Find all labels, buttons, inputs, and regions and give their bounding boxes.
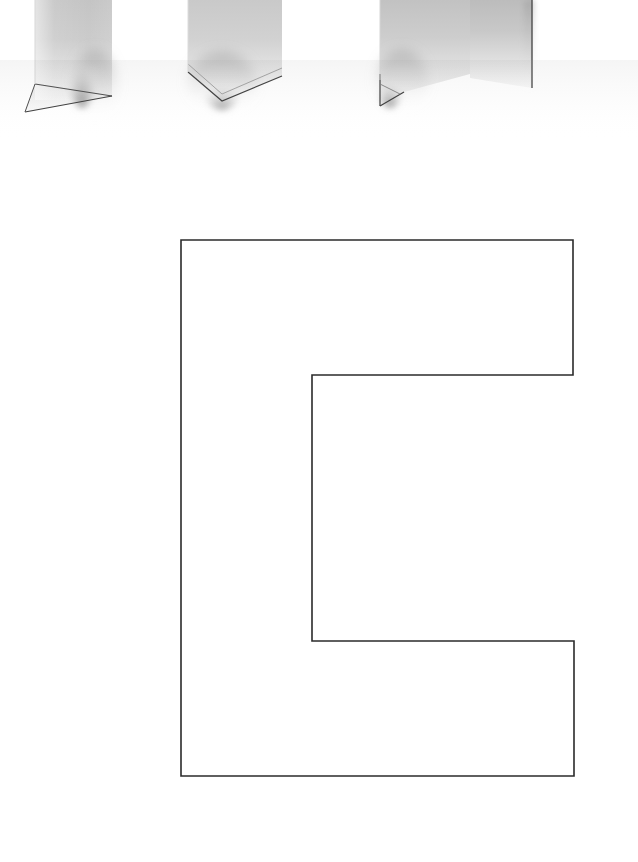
banner-bottom-fade: [0, 60, 638, 140]
scene-svg: [0, 0, 638, 862]
scene-canvas: Paper banner strip with C-shaped outline…: [0, 0, 638, 862]
